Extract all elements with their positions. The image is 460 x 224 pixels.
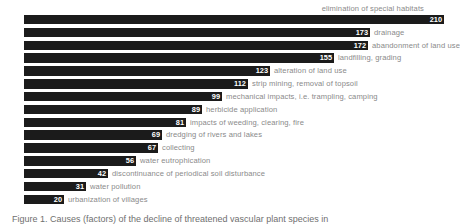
- bar-row: 56water eutrophication: [0, 155, 442, 168]
- bar-value-label: 69: [24, 130, 162, 139]
- bar-value-label: 172: [24, 41, 368, 50]
- bar-label-top: elimination of special habitats: [322, 4, 424, 13]
- bar-category-label: herbicide application: [206, 105, 277, 114]
- bar-value-label: 31: [24, 182, 86, 191]
- bar-value-label: 123: [24, 66, 270, 75]
- bar-category-label: discontinuance of periodical soil distur…: [112, 169, 265, 178]
- bar-row: 155landfilling, grading: [0, 52, 442, 65]
- bar-category-label: drainage: [374, 28, 404, 37]
- bar-value-label: 81: [24, 118, 186, 127]
- bar-category-label: landfilling, grading: [338, 53, 401, 62]
- bar-category-label: urbanization of villages: [68, 195, 148, 204]
- bar-row: 123alteration of land use: [0, 65, 442, 78]
- bar-row: 99mechanical impacts, i.e. trampling, ca…: [0, 91, 442, 104]
- bar-category-label: water eutrophication: [140, 156, 210, 165]
- bar-row: 89herbicide application: [0, 104, 442, 117]
- bar-category-label: collecting: [162, 143, 195, 152]
- bar-row: 69dredging of rivers and lakes: [0, 129, 442, 142]
- bar-value-label: 173: [24, 28, 370, 37]
- bar-category-label: dredging of rivers and lakes: [166, 130, 262, 139]
- bar-row: 81impacts of weeding, clearing, fire: [0, 117, 442, 130]
- bar-row: 173drainage: [0, 27, 442, 40]
- bar-row: 210: [0, 14, 442, 27]
- bar-value-label: 42: [24, 169, 108, 178]
- bar-category-label: alteration of land use: [274, 66, 347, 75]
- bar-value-label: 20: [24, 195, 64, 204]
- bar-value-label: 89: [24, 105, 202, 114]
- bar-value-label: 67: [24, 143, 158, 152]
- bar-category-label: impacts of weeding, clearing, fire: [190, 118, 304, 127]
- bar-value-label: 155: [24, 53, 334, 62]
- bar-row: 112strip mining, removal of topsoil: [0, 78, 442, 91]
- bar-category-label: mechanical impacts, i.e. trampling, camp…: [226, 92, 378, 101]
- bar-row: 42discontinuance of periodical soil dist…: [0, 168, 442, 181]
- bar-category-label: strip mining, removal of topsoil: [252, 79, 358, 88]
- figure-caption: Figure 1. Causes (factors) of the declin…: [12, 214, 442, 224]
- bar-value-label: 210: [24, 15, 444, 24]
- chart-plot-area: elimination of special habitats 210173dr…: [0, 0, 442, 212]
- bar-value-label: 112: [24, 79, 248, 88]
- bar-row: 31water pollution: [0, 181, 442, 194]
- bar-value-label: 99: [24, 92, 222, 101]
- bar-category-label: abandonment of land use: [372, 41, 460, 50]
- bar-row: 20urbanization of villages: [0, 194, 442, 207]
- bar-category-label: water pollution: [90, 182, 140, 191]
- bar-value-label: 56: [24, 156, 136, 165]
- bar-row: 67collecting: [0, 142, 442, 155]
- bar-row: 172abandonment of land use: [0, 40, 442, 53]
